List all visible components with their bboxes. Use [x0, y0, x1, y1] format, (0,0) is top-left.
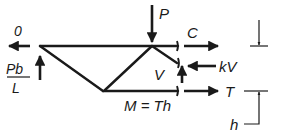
left-vertical-denominator: L [12, 80, 20, 96]
depth-label: h [230, 116, 238, 133]
cut-mark-top [177, 41, 178, 51]
force-kv-label: kV [219, 58, 239, 75]
cut-mark-bottom [177, 86, 178, 96]
moment-equation: M = Th [124, 97, 171, 114]
inner-diagonal [105, 46, 152, 90]
force-v-label: V [154, 66, 166, 83]
diagram-svg: 0 Pb L P C kV V T M = Th h [0, 0, 282, 134]
force-c-label: C [187, 24, 198, 41]
cut-diagonal [152, 46, 177, 63]
left-horizontal-label: 0 [14, 23, 22, 39]
load-p-label: P [159, 5, 169, 22]
cut-mark-diagonal [178, 58, 179, 68]
dimension-arrow-up-icon [244, 92, 259, 124]
left-diagonal [40, 46, 103, 91]
force-arrows [9, 5, 218, 91]
cut-marks [177, 41, 179, 96]
truss-free-body-diagram: 0 Pb L P C kV V T M = Th h [0, 0, 282, 134]
depth-dimension [244, 20, 268, 124]
left-vertical-numerator: Pb [6, 61, 23, 77]
force-t-label: T [225, 83, 236, 100]
